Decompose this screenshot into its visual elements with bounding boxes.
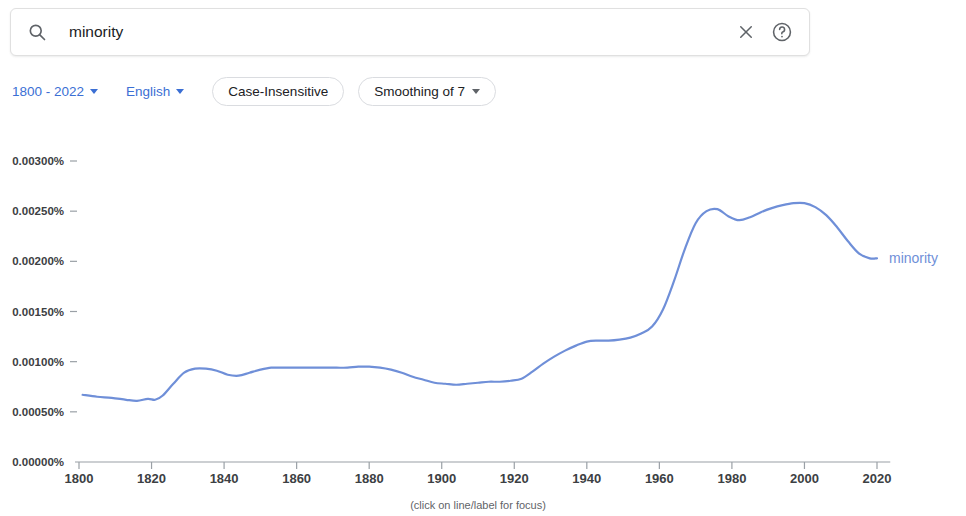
x-axis-tick-label: 1880 — [355, 471, 384, 486]
chart-controls-row: 1800 - 2022 English Case-Insensitive Smo… — [12, 74, 510, 108]
chevron-down-icon — [176, 89, 184, 94]
y-axis-tick-labels: 0.00300%0.00250%0.00200%0.00150%0.00100%… — [12, 155, 64, 468]
date-range-selector[interactable]: 1800 - 2022 — [12, 84, 98, 99]
chevron-down-icon — [472, 89, 480, 94]
series-line-minority[interactable] — [83, 203, 877, 401]
x-axis-tick-label: 1840 — [210, 471, 239, 486]
x-axis-tick-label: 1960 — [645, 471, 674, 486]
search-icon — [27, 22, 47, 42]
y-axis-tick-label: 0.00100% — [12, 356, 64, 368]
x-axis-tick-label: 1860 — [282, 471, 311, 486]
ngram-chart[interactable]: 0.00300%0.00250%0.00200%0.00150%0.00100%… — [0, 126, 966, 516]
x-axis-tick-label: 1980 — [717, 471, 746, 486]
x-axis-tick-labels: 1800182018401860188019001920194019601980… — [65, 471, 892, 486]
x-axis-tick-label: 1800 — [65, 471, 94, 486]
y-axis-ticks — [70, 161, 77, 412]
case-sensitivity-label: Case-Insensitive — [228, 84, 328, 99]
y-axis-tick-label: 0.00150% — [12, 306, 64, 318]
y-axis-tick-label: 0.00250% — [12, 205, 64, 217]
x-axis-tick-label: 2000 — [790, 471, 819, 486]
x-axis-tick-label: 2020 — [863, 471, 892, 486]
chart-canvas[interactable]: 0.00300%0.00250%0.00200%0.00150%0.00100%… — [0, 126, 966, 516]
date-range-label: 1800 - 2022 — [12, 84, 84, 99]
y-axis-tick-label: 0.00050% — [12, 406, 64, 418]
y-axis-tick-label: 0.00300% — [12, 155, 64, 167]
search-bar[interactable] — [10, 8, 810, 56]
help-circle-icon[interactable] — [769, 19, 795, 45]
series-label-minority[interactable]: minority — [889, 250, 938, 266]
x-axis-tick-label: 1900 — [427, 471, 456, 486]
chart-focus-caption: (click on line/label for focus) — [410, 499, 546, 511]
chevron-down-icon — [90, 89, 98, 94]
smoothing-selector[interactable]: Smoothing of 7 — [358, 77, 496, 106]
x-axis-tick-label: 1920 — [500, 471, 529, 486]
y-axis-tick-label: 0.00000% — [12, 456, 64, 468]
close-icon[interactable] — [733, 19, 759, 45]
x-axis-ticks — [79, 462, 877, 469]
smoothing-label: Smoothing of 7 — [374, 84, 465, 99]
x-axis-tick-label: 1820 — [137, 471, 166, 486]
x-axis-tick-label: 1940 — [572, 471, 601, 486]
language-label: English — [126, 84, 170, 99]
language-selector[interactable]: English — [126, 84, 184, 99]
case-sensitivity-toggle[interactable]: Case-Insensitive — [212, 77, 344, 106]
y-axis-tick-label: 0.00200% — [12, 255, 64, 267]
search-input[interactable] — [69, 23, 723, 41]
